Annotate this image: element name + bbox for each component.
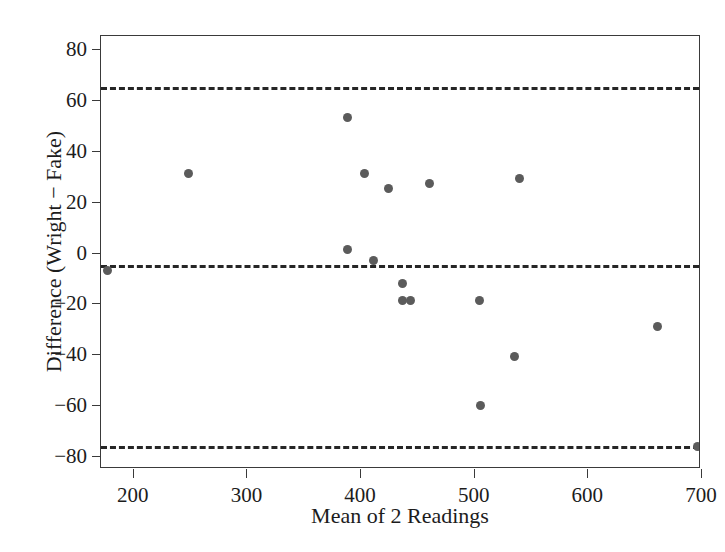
x-tick <box>701 469 702 478</box>
x-axis-label: Mean of 2 Readings <box>100 505 700 527</box>
y-tick-label: 0 <box>77 242 88 263</box>
x-tick-label: 700 <box>685 485 717 506</box>
x-tick-label: 600 <box>572 485 604 506</box>
data-point <box>369 256 378 265</box>
x-tick <box>474 469 475 478</box>
x-tick <box>133 469 134 478</box>
data-point <box>475 296 484 305</box>
x-tick-label: 200 <box>117 485 149 506</box>
y-tick <box>92 100 101 101</box>
data-point <box>360 169 369 178</box>
x-tick <box>360 469 361 478</box>
x-tick-label: 300 <box>231 485 263 506</box>
y-tick <box>92 202 101 203</box>
data-point <box>343 245 352 254</box>
data-point <box>515 174 524 183</box>
plot-area <box>101 36 699 467</box>
data-point <box>398 279 407 288</box>
data-point <box>476 401 485 410</box>
y-axis-label: Difference (Wright − Fake) <box>34 35 74 468</box>
y-tick <box>92 49 101 50</box>
upper-limit-of-agreement-line <box>101 87 699 90</box>
y-tick <box>92 151 101 152</box>
y-tick <box>92 354 101 355</box>
x-tick <box>587 469 588 478</box>
data-point <box>510 352 519 361</box>
data-point <box>184 169 193 178</box>
data-point <box>343 113 352 122</box>
y-tick <box>92 405 101 406</box>
y-tick <box>92 253 101 254</box>
data-point <box>425 179 434 188</box>
x-tick <box>246 469 247 478</box>
y-tick <box>92 303 101 304</box>
lower-limit-of-agreement-line <box>101 446 699 449</box>
y-tick <box>92 456 101 457</box>
data-point <box>384 184 393 193</box>
mean-bias-line <box>101 265 699 268</box>
plot-frame: 806040200−20−40−60−80 200300400500600700 <box>100 35 700 468</box>
bland-altman-scatter-figure: 806040200−20−40−60−80 200300400500600700… <box>0 0 725 552</box>
data-point <box>406 296 415 305</box>
data-point <box>103 266 112 275</box>
data-point <box>653 322 662 331</box>
data-point <box>693 442 699 451</box>
